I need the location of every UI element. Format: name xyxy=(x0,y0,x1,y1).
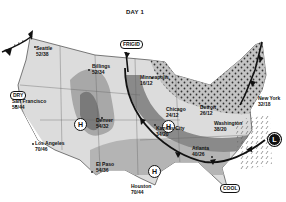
cool-label: COOL xyxy=(220,184,240,193)
city-houston: Houston70/44 xyxy=(131,183,151,195)
low-pressure-icon: L xyxy=(268,133,281,146)
city-detroit: Detroit26/12 xyxy=(200,104,216,116)
city-seattle: Seattle52/38 xyxy=(36,45,52,57)
city-minneapolis: Minneapolis16/12 xyxy=(140,74,169,86)
city-el-paso: El Paso54/36 xyxy=(96,161,114,173)
city-washington: Washington38/20 xyxy=(214,120,242,132)
city-new-york: New York32/18 xyxy=(258,95,280,107)
city-kansas-city: Kansas City34/20 xyxy=(156,125,185,137)
city-chicago: Chicago24/12 xyxy=(166,106,186,118)
high-pressure-icon: H xyxy=(148,165,161,178)
city-billings: Billings52/34 xyxy=(92,63,110,75)
city-atlanta: Atlanta40/26 xyxy=(192,145,209,157)
city-los-angeles: Los Angeles70/46 xyxy=(35,140,65,152)
city-san-francisco: San Francisco58/44 xyxy=(12,98,46,110)
day-title: DAY 1 xyxy=(126,9,144,15)
high-pressure-icon: H xyxy=(74,118,87,131)
frigid-label: FRIGID xyxy=(120,40,143,49)
city-denver: Denver54/32 xyxy=(96,117,113,129)
